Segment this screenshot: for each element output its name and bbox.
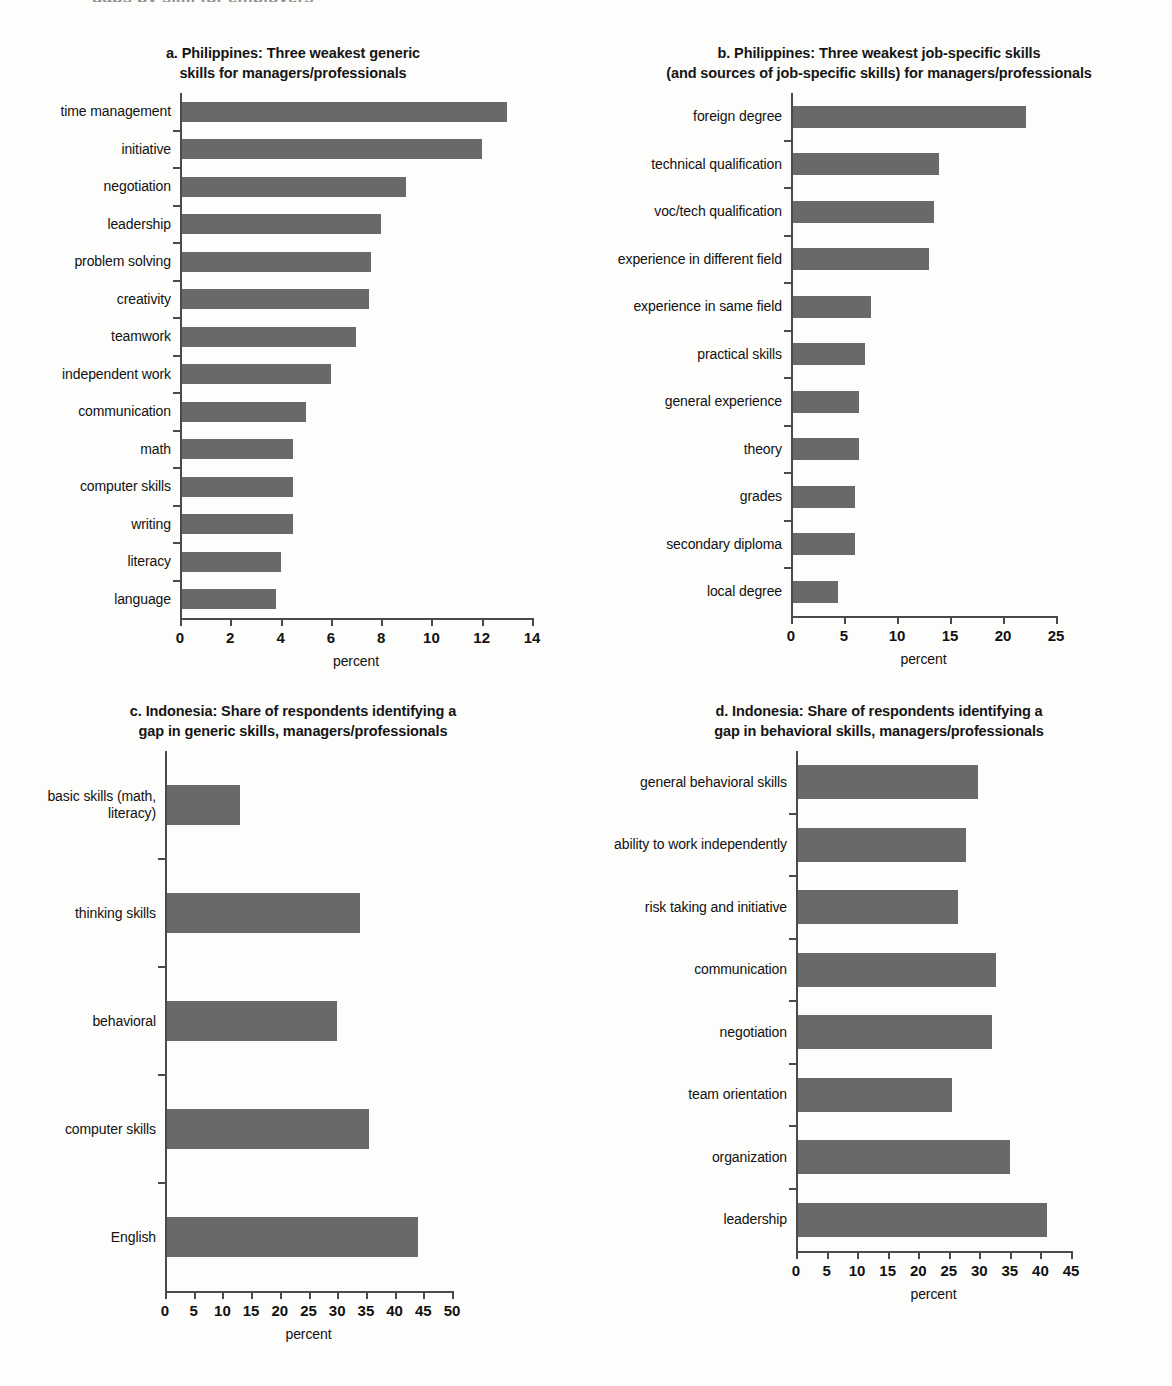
bar-row[interactable]: negotiation (586, 1001, 1172, 1064)
bar-row[interactable]: leadership (586, 1189, 1172, 1252)
bar[interactable] (180, 289, 369, 309)
bar[interactable] (180, 589, 276, 609)
bar[interactable] (791, 153, 939, 175)
bar[interactable] (180, 552, 281, 572)
bar-row[interactable]: secondary diploma (586, 521, 1172, 569)
bar-row[interactable]: technical qualification (586, 141, 1172, 189)
bar-track (791, 426, 1172, 474)
bar[interactable] (791, 106, 1026, 128)
bar[interactable] (796, 1140, 1010, 1174)
x-axis-tick (1010, 1251, 1012, 1259)
bar[interactable] (165, 785, 240, 825)
bar[interactable] (796, 1015, 992, 1049)
bar[interactable] (180, 477, 293, 497)
bar-row[interactable]: initiative (0, 131, 586, 169)
category-label: grades (586, 488, 791, 505)
bar[interactable] (796, 1203, 1047, 1237)
bar[interactable] (180, 439, 293, 459)
bar[interactable] (791, 391, 859, 413)
bar[interactable] (180, 214, 381, 234)
bar[interactable] (791, 248, 929, 270)
x-axis-tick (281, 618, 283, 626)
category-label: math (0, 441, 180, 458)
bar-row[interactable]: practical skills (586, 331, 1172, 379)
category-label: behavioral (0, 1013, 165, 1030)
category-label: voc/tech qualification (586, 203, 791, 220)
bar[interactable] (791, 201, 934, 223)
bar-row[interactable]: experience in different field (586, 236, 1172, 284)
bar-row[interactable]: thinking skills (0, 859, 586, 967)
bar[interactable] (180, 364, 331, 384)
bar[interactable] (796, 765, 978, 799)
bar[interactable] (791, 438, 859, 460)
bar-row[interactable]: foreign degree (586, 93, 1172, 141)
bar[interactable] (180, 327, 356, 347)
bar[interactable] (791, 581, 838, 603)
bar-row[interactable]: general behavioral skills (586, 751, 1172, 814)
bar[interactable] (791, 486, 855, 508)
bar[interactable] (796, 890, 958, 924)
bar-row[interactable]: voc/tech qualification (586, 188, 1172, 236)
panel-c-title: c. Indonesia: Share of respondents ident… (0, 700, 586, 741)
x-tick-label: 5 (190, 1302, 198, 1319)
bar[interactable] (791, 296, 871, 318)
bar-row[interactable]: local degree (586, 568, 1172, 616)
bar-track (165, 751, 586, 859)
bar-row[interactable]: leadership (0, 206, 586, 244)
bar-row[interactable]: writing (0, 506, 586, 544)
bar[interactable] (180, 177, 406, 197)
bar-row[interactable]: ability to work independently (586, 814, 1172, 877)
bar[interactable] (180, 102, 507, 122)
x-tick-label: 50 (444, 1302, 461, 1319)
bar-row[interactable]: time management (0, 93, 586, 131)
bar[interactable] (165, 1217, 418, 1257)
x-tick-label: 10 (849, 1262, 866, 1279)
x-tick-label: 14 (524, 629, 541, 646)
bar-row[interactable]: computer skills (0, 468, 586, 506)
bar-row[interactable]: organization (586, 1126, 1172, 1189)
bar-row[interactable]: communication (0, 393, 586, 431)
x-tick-label: 25 (300, 1302, 317, 1319)
bar-row[interactable]: basic skills (math,literacy) (0, 751, 586, 859)
category-label: secondary diploma (586, 536, 791, 553)
bar[interactable] (180, 139, 482, 159)
bar[interactable] (180, 252, 371, 272)
bar-row[interactable]: creativity (0, 281, 586, 319)
bar-row[interactable]: grades (586, 473, 1172, 521)
bar-row[interactable]: language (0, 581, 586, 619)
bar-row[interactable]: problem solving (0, 243, 586, 281)
bar-row[interactable]: literacy (0, 543, 586, 581)
panel-b: b. Philippines: Three weakest job-specif… (586, 40, 1172, 680)
bar-row[interactable]: general experience (586, 378, 1172, 426)
bar[interactable] (165, 893, 360, 933)
bar[interactable] (180, 514, 293, 534)
bar-row[interactable]: risk taking and initiative (586, 876, 1172, 939)
bar-row[interactable]: negotiation (0, 168, 586, 206)
x-tick-label: 35 (358, 1302, 375, 1319)
bar-row[interactable]: math (0, 431, 586, 469)
bar[interactable] (796, 828, 966, 862)
bar-track (180, 281, 586, 319)
category-label: problem solving (0, 253, 180, 270)
bar-row[interactable]: English (0, 1183, 586, 1291)
x-axis-tick (194, 1291, 196, 1299)
bar[interactable] (791, 343, 865, 365)
bar-row[interactable]: behavioral (0, 967, 586, 1075)
bar-row[interactable]: team orientation (586, 1064, 1172, 1127)
bar[interactable] (791, 533, 855, 555)
bar[interactable] (796, 953, 996, 987)
x-axis-tick (366, 1291, 368, 1299)
bar-row[interactable]: experience in same field (586, 283, 1172, 331)
x-axis-tick (431, 618, 433, 626)
x-axis-group: 0510152025percent (586, 616, 1172, 667)
bar-row[interactable]: independent work (0, 356, 586, 394)
bar-row[interactable]: communication (586, 939, 1172, 1002)
bar-row[interactable]: theory (586, 426, 1172, 474)
x-tick-label: 15 (942, 627, 959, 644)
bar[interactable] (165, 1109, 369, 1149)
bar[interactable] (165, 1001, 337, 1041)
bar-row[interactable]: teamwork (0, 318, 586, 356)
bar[interactable] (796, 1078, 952, 1112)
bar[interactable] (180, 402, 306, 422)
bar-row[interactable]: computer skills (0, 1075, 586, 1183)
